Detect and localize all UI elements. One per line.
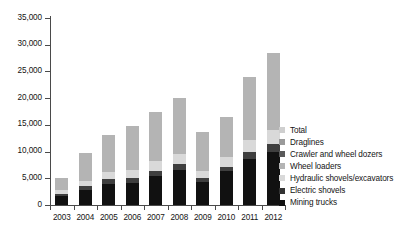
legend-swatch-icon (279, 175, 285, 181)
bar-segment (102, 172, 115, 179)
bar-2012 (267, 53, 280, 205)
x-axis-tick (121, 205, 122, 210)
bar-segment (220, 117, 233, 158)
legend-item[interactable]: Draglines (279, 136, 407, 148)
bar-segment (173, 154, 186, 164)
x-axis-tick-label: 2005 (97, 213, 121, 222)
x-axis-tick-label: 2011 (238, 213, 262, 222)
bar-segment (126, 126, 139, 170)
bar-segment (196, 182, 209, 206)
bar-2008 (173, 98, 186, 205)
x-axis-tick-label: 2012 (262, 213, 286, 222)
x-axis-tick-label: 2003 (50, 213, 74, 222)
legend-item-label: Wheel loaders (290, 162, 341, 171)
chart-legend: TotalDraglinesCrawler and wheel dozersWh… (279, 124, 407, 209)
y-axis-tick-label: 20,000 (0, 94, 42, 102)
x-axis-tick-label: 2004 (74, 213, 98, 222)
bar-segment (149, 161, 162, 171)
legend-item[interactable]: Total (279, 124, 407, 136)
bar-segment (220, 171, 233, 205)
bar-segment (243, 77, 256, 141)
legend-item[interactable]: Crawler and wheel dozers (279, 148, 407, 160)
y-axis-tick-label: 10,000 (0, 147, 42, 155)
x-axis-tick-label: 2008 (168, 213, 192, 222)
legend-swatch-icon (279, 200, 285, 206)
x-axis-tick (50, 205, 51, 210)
x-axis-tick (238, 205, 239, 210)
y-axis-tick-label: 25,000 (0, 67, 42, 75)
x-axis-tick (97, 205, 98, 210)
bar-2005 (102, 135, 115, 205)
x-axis-tick-label: 2009 (191, 213, 215, 222)
bar-segment (79, 153, 92, 181)
bar-2003 (55, 178, 68, 205)
bar-segment (243, 152, 256, 159)
legend-item-label: Total (290, 126, 307, 135)
bar-segment (102, 135, 115, 173)
x-axis-tick (191, 205, 192, 210)
y-axis-tick-label: 15,000 (0, 120, 42, 128)
legend-item-label: Hydraulic shovels/excavators (290, 174, 393, 183)
bar-2011 (243, 77, 256, 205)
legend-item[interactable]: Electric shovels (279, 184, 407, 196)
bar-segment (126, 183, 139, 205)
legend-swatch-icon (279, 139, 285, 145)
x-axis-tick (262, 205, 263, 210)
bar-segment (79, 190, 92, 205)
y-axis-tick-label: 30,000 (0, 40, 42, 48)
x-axis-tick (168, 205, 169, 210)
legend-swatch-icon (279, 151, 285, 157)
bar-segment (126, 170, 139, 177)
legend-item-label: Draglines (290, 138, 324, 147)
legend-swatch-icon (279, 163, 285, 169)
bar-segment (267, 130, 280, 144)
bar-segment (267, 53, 280, 130)
y-axis-tick-label: 5,000 (0, 174, 42, 182)
legend-item-label: Electric shovels (290, 186, 345, 195)
bar-segment (149, 176, 162, 205)
x-axis-tick (74, 205, 75, 210)
x-axis-tick-label: 2006 (121, 213, 145, 222)
bar-segment (173, 170, 186, 205)
legend-swatch-icon (279, 188, 285, 194)
bar-chart: 05,00010,00015,00020,00025,00030,00035,0… (0, 0, 410, 239)
legend-item[interactable]: Mining trucks (279, 197, 407, 209)
bar-2007 (149, 112, 162, 205)
plot-area (50, 18, 285, 205)
bar-segment (149, 112, 162, 161)
bar-segment (196, 132, 209, 170)
x-axis-tick-label: 2010 (215, 213, 239, 222)
x-axis-tick (215, 205, 216, 210)
bar-segment (267, 144, 280, 152)
x-axis-tick (144, 205, 145, 210)
bar-segment (196, 171, 209, 178)
bar-2010 (220, 117, 233, 205)
y-axis-tick-label: 0 (0, 201, 42, 209)
legend-item[interactable]: Hydraulic shovels/excavators (279, 172, 407, 184)
legend-item[interactable]: Wheel loaders (279, 160, 407, 172)
bar-segment (267, 152, 280, 205)
legend-swatch-icon (279, 127, 285, 133)
bar-2006 (126, 126, 139, 205)
bar-segment (102, 184, 115, 205)
x-axis-tick-label: 2007 (144, 213, 168, 222)
bar-segment (55, 178, 68, 190)
bar-segment (55, 196, 68, 205)
bar-segment (173, 98, 186, 154)
legend-item-label: Crawler and wheel dozers (290, 150, 382, 159)
bar-segment (220, 157, 233, 166)
y-axis-tick-label: 35,000 (0, 14, 42, 22)
bar-2009 (196, 132, 209, 205)
bar-segment (243, 140, 256, 152)
bar-segment (243, 159, 256, 205)
legend-item-label: Mining trucks (290, 198, 337, 207)
bar-2004 (79, 153, 92, 205)
